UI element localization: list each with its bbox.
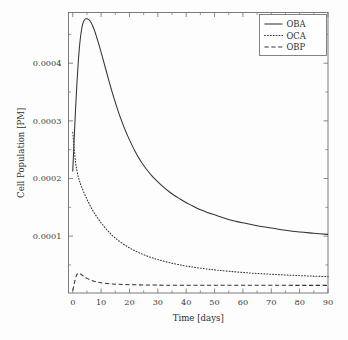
x-axis-tick-label: 20 [124, 297, 134, 307]
legend-label-obp: OBP [287, 42, 306, 52]
x-axis-tick-label: 40 [181, 297, 191, 307]
chart-canvas: OBAOCAOBP 01020304050607080900.00010.000… [0, 0, 348, 340]
legend-layer: OBAOCAOBP [260, 15, 327, 56]
x-axis-tick-label: 50 [209, 297, 219, 307]
x-axis-tick-label: 70 [266, 297, 276, 307]
curve-layer [73, 19, 328, 291]
x-axis-tick-label: 90 [323, 297, 333, 307]
legend-label-oba: OBA [287, 19, 307, 29]
y-axis-tick-label: 0.0004 [33, 58, 62, 68]
x-axis-tick-label: 0 [70, 297, 75, 307]
legend-label-oca: OCA [287, 31, 307, 41]
x-axis-tick-label: 60 [238, 297, 248, 307]
chart-figure: OBAOCAOBP 01020304050607080900.00010.000… [0, 0, 348, 340]
y-axis-tick-label: 0.0003 [33, 116, 62, 126]
y-axis-tick-label: 0.0001 [33, 231, 62, 241]
label-layer: 01020304050607080900.00010.00020.00030.0… [16, 58, 333, 323]
y-axis-title: Cell Population [PM] [16, 108, 26, 198]
series-line-obp [73, 273, 328, 290]
x-axis-tick-label: 30 [153, 297, 163, 307]
x-axis-title: Time [days] [173, 313, 224, 323]
y-axis-tick-label: 0.0002 [33, 173, 62, 183]
series-line-oca [73, 132, 328, 276]
x-axis-tick-label: 10 [96, 297, 106, 307]
x-axis-tick-label: 80 [294, 297, 304, 307]
